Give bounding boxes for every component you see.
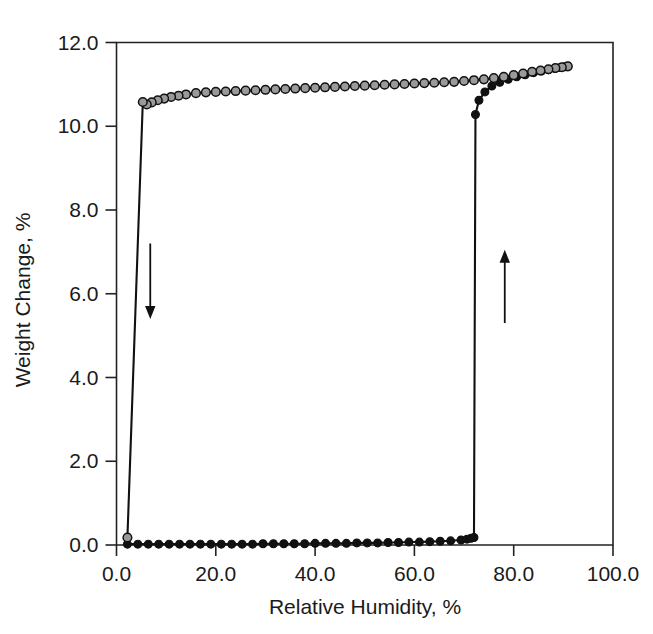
data-point	[420, 79, 429, 88]
y-tick-label: 4.0	[69, 366, 98, 389]
data-point	[415, 538, 423, 546]
data-point	[261, 86, 270, 95]
data-point	[384, 539, 392, 547]
y-tick-label: 10.0	[58, 114, 99, 137]
data-point	[165, 540, 173, 548]
data-point	[197, 540, 205, 548]
data-point	[217, 540, 225, 548]
data-point	[488, 82, 496, 90]
data-point	[363, 539, 371, 547]
data-point	[374, 539, 382, 547]
data-point	[436, 537, 444, 545]
data-point	[410, 79, 419, 88]
data-point	[450, 78, 459, 87]
x-tick-label: 20.0	[195, 562, 236, 585]
data-point	[139, 98, 148, 107]
x-tick-label: 80.0	[493, 562, 534, 585]
y-tick-label: 12.0	[58, 31, 99, 54]
humidity-sorption-isotherm-chart: 0.020.040.060.080.0100.0 0.02.04.06.08.0…	[0, 0, 653, 634]
data-point	[380, 80, 389, 89]
data-point	[395, 539, 403, 547]
data-point	[231, 87, 240, 96]
data-point	[426, 538, 434, 546]
data-point	[321, 83, 330, 92]
data-point	[301, 540, 309, 548]
data-point	[430, 78, 439, 87]
data-point	[528, 68, 537, 77]
data-point	[509, 71, 518, 80]
data-point	[480, 75, 489, 84]
x-tick-label: 0.0	[102, 562, 131, 585]
data-point	[259, 540, 267, 548]
chart-container: 0.020.040.060.080.0100.0 0.02.04.06.08.0…	[0, 0, 653, 634]
data-point	[281, 85, 290, 94]
data-point	[519, 69, 528, 78]
data-point	[499, 73, 508, 82]
data-point	[290, 540, 298, 548]
data-point	[301, 84, 310, 93]
data-point	[134, 540, 142, 548]
data-point	[351, 82, 360, 91]
data-point	[440, 78, 449, 87]
data-point	[123, 533, 132, 542]
data-point	[390, 80, 399, 89]
data-point	[238, 540, 246, 548]
data-point	[490, 74, 499, 83]
y-tick-label: 6.0	[69, 282, 98, 305]
data-point	[400, 80, 409, 89]
data-point	[249, 540, 257, 548]
data-point	[202, 88, 211, 97]
data-point	[144, 540, 152, 548]
data-point	[207, 540, 215, 548]
data-point	[241, 86, 250, 95]
data-point	[155, 540, 163, 548]
x-tick-label: 40.0	[295, 562, 336, 585]
data-point	[331, 83, 340, 92]
data-point	[536, 66, 545, 75]
data-point	[370, 81, 379, 90]
data-point	[269, 540, 277, 548]
data-point	[470, 76, 479, 85]
data-point	[460, 77, 469, 86]
data-point	[280, 540, 288, 548]
data-point	[291, 84, 300, 93]
data-point	[405, 538, 413, 546]
y-tick-label: 2.0	[69, 449, 98, 472]
x-tick-label: 100.0	[587, 562, 640, 585]
data-point	[470, 534, 478, 542]
data-point	[192, 89, 201, 98]
data-point	[341, 82, 350, 91]
data-point	[353, 539, 361, 547]
y-axis-title: Weight Change, %	[11, 213, 34, 388]
data-point	[360, 81, 369, 90]
y-tick-label: 8.0	[69, 198, 98, 221]
data-point	[311, 83, 320, 92]
data-point	[544, 65, 553, 74]
data-point	[322, 539, 330, 547]
data-point	[472, 111, 480, 119]
data-point	[481, 88, 489, 96]
data-point	[271, 85, 280, 94]
data-point	[228, 540, 236, 548]
data-point	[447, 537, 455, 545]
data-point	[251, 86, 260, 95]
data-point	[342, 539, 350, 547]
x-axis-title: Relative Humidity, %	[269, 595, 461, 618]
data-point	[186, 540, 194, 548]
data-point	[221, 87, 230, 96]
data-point	[332, 539, 340, 547]
data-point	[176, 540, 184, 548]
y-tick-label: 0.0	[69, 533, 98, 556]
data-point	[212, 88, 221, 97]
data-point	[311, 539, 319, 547]
data-point	[475, 96, 483, 104]
x-tick-label: 60.0	[394, 562, 435, 585]
